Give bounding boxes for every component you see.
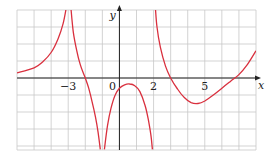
curve-left-branch [17, 7, 67, 73]
grid-lines [17, 10, 256, 150]
y-axis-label: y [108, 9, 116, 22]
curve-center-hump [104, 84, 152, 149]
x-tick-label: 5 [201, 80, 208, 93]
x-axis-label: x [258, 79, 265, 92]
y-axis-arrow-icon [117, 5, 122, 11]
x-tick-label: 2 [150, 80, 157, 93]
function-graph: x y −3025 [0, 0, 270, 160]
x-tick-label: −3 [60, 80, 76, 93]
x-tick-labels: −3025 [60, 80, 208, 93]
x-tick-label: 0 [109, 80, 116, 93]
axis-labels: x y [108, 9, 265, 92]
